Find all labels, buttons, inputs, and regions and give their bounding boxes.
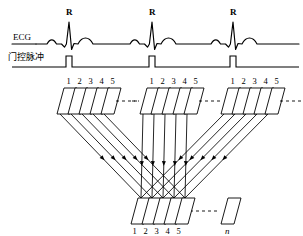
frame-number-bottom: 1	[133, 227, 137, 236]
frame-number-top: 1	[150, 77, 154, 86]
frame-number-top: 3	[172, 77, 176, 86]
frame-number-top: 1	[231, 77, 235, 86]
acquisition-arrow	[104, 114, 185, 198]
bottom-frame-row	[131, 198, 241, 224]
frame-number-top: 4	[264, 77, 268, 86]
frame-number-top: 2	[161, 77, 165, 86]
diagram-svg	[0, 0, 303, 236]
acquisition-arrow	[141, 114, 143, 198]
frame-number-top: 4	[183, 77, 187, 86]
frame-number-bottom: 5	[177, 227, 181, 236]
ecg-signal-label: ECG	[13, 33, 31, 42]
acquisition-arrow	[71, 114, 152, 198]
acquisition-arrows	[60, 114, 268, 198]
r-wave-label: R	[66, 8, 73, 17]
frame-number-top: 2	[242, 77, 246, 86]
acquisition-arrow	[185, 114, 268, 198]
frame-number-top: 5	[194, 77, 198, 86]
frame-card-n	[221, 198, 241, 224]
acquisition-arrow	[82, 114, 163, 198]
figure-canvas: 12345123451234512345nECG门控脉冲RRR	[0, 0, 303, 236]
acquisition-arrow	[60, 114, 141, 198]
frame-label-n: n	[225, 227, 230, 236]
frame-number-bottom: 2	[144, 227, 148, 236]
frame-number-top: 4	[100, 77, 104, 86]
frame-number-top: 1	[67, 77, 71, 86]
frame-number-top: 2	[78, 77, 82, 86]
ecg-waveform	[12, 22, 299, 50]
frame-number-bottom: 3	[155, 227, 159, 236]
frame-number-top: 3	[253, 77, 257, 86]
frame-number-top: 5	[111, 77, 115, 86]
gating-pulse-waveform	[12, 56, 299, 67]
r-wave-label: R	[149, 8, 156, 17]
frame-number-top: 3	[89, 77, 93, 86]
r-wave-label: R	[230, 8, 237, 17]
frame-number-bottom: 4	[166, 227, 170, 236]
top-frame-row	[57, 88, 285, 114]
acquisition-arrow	[93, 114, 174, 198]
gating-pulse-label: 门控脉冲	[8, 53, 44, 62]
arrowhead-icon	[162, 161, 166, 166]
frame-number-top: 5	[275, 77, 279, 86]
